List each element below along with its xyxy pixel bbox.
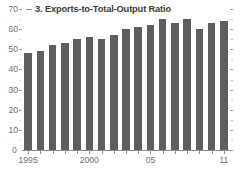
x-axis-tick <box>163 150 164 154</box>
x-axis-tick <box>138 150 139 154</box>
plot-area: 10203040506070 <box>22 9 230 150</box>
right-axis-minor-tick <box>231 59 233 60</box>
y-axis-label: 20 <box>8 106 18 114</box>
right-axis-minor-tick <box>231 140 233 141</box>
bar <box>61 43 69 150</box>
x-axis-tick <box>126 150 127 154</box>
right-axis-tick <box>230 69 233 70</box>
y-axis-zero-label: 0 <box>12 145 17 155</box>
bar <box>73 39 81 150</box>
y-axis-minor-tick <box>20 140 22 141</box>
y-axis-label: 30 <box>8 86 18 94</box>
x-axis-tick <box>114 150 115 154</box>
x-axis-label: 11 <box>219 155 228 165</box>
x-axis: 199520000511 <box>22 150 230 151</box>
x-axis-label: 1995 <box>19 155 38 165</box>
bar <box>24 53 32 150</box>
x-axis-tick <box>212 150 213 154</box>
bar <box>49 45 57 150</box>
right-axis-minor-tick <box>231 120 233 121</box>
x-axis-tick <box>40 150 41 154</box>
x-axis-tick <box>150 150 151 154</box>
x-axis-tick <box>224 150 225 154</box>
right-axis-tick <box>230 130 233 131</box>
x-axis-tick <box>102 150 103 154</box>
bar <box>220 21 228 150</box>
bar <box>183 19 191 150</box>
bar <box>208 23 216 150</box>
right-axis-tick <box>230 110 233 111</box>
right-axis-tick <box>230 90 233 91</box>
bar <box>171 23 179 150</box>
x-axis-tick <box>89 150 90 154</box>
bar <box>134 27 142 150</box>
right-axis-tick <box>230 9 233 10</box>
bar <box>98 39 106 150</box>
y-axis-tick <box>19 110 22 111</box>
y-axis-label: 10 <box>8 126 18 134</box>
y-axis-minor-tick <box>20 80 22 81</box>
x-axis-tick <box>28 150 29 154</box>
right-axis-minor-tick <box>231 19 233 20</box>
x-axis-label: 05 <box>146 155 156 165</box>
y-axis-label: 70 <box>8 5 18 13</box>
x-axis-tick <box>187 150 188 154</box>
y-axis-tick <box>19 9 22 10</box>
right-axis-minor-tick <box>231 80 233 81</box>
y-axis-label: 50 <box>8 45 18 53</box>
y-axis-minor-tick <box>20 120 22 121</box>
x-axis-label: 2000 <box>80 155 99 165</box>
x-axis-tick <box>53 150 54 154</box>
chart-figure: 3. Exports-to-Total-Output Ratio 1020304… <box>0 0 241 176</box>
y-axis-tick <box>19 90 22 91</box>
y-axis-label: 40 <box>8 65 18 73</box>
x-axis-tick <box>65 150 66 154</box>
x-axis-tick <box>175 150 176 154</box>
bar <box>37 51 45 150</box>
y-axis-tick <box>19 29 22 30</box>
x-axis-tick <box>199 150 200 154</box>
y-axis-minor-tick <box>20 19 22 20</box>
y-axis-minor-tick <box>20 39 22 40</box>
y-axis-minor-tick <box>20 59 22 60</box>
y-axis-minor-tick <box>20 100 22 101</box>
bar <box>86 37 94 150</box>
x-axis-tick <box>77 150 78 154</box>
y-axis-tick <box>19 130 22 131</box>
y-axis-tick <box>19 49 22 50</box>
bar <box>159 19 167 150</box>
right-axis-tick <box>230 150 233 151</box>
right-axis-minor-tick <box>231 39 233 40</box>
right-axis-tick <box>230 29 233 30</box>
right-axis-tick <box>230 49 233 50</box>
bar <box>196 29 204 150</box>
bar <box>147 25 155 150</box>
bar <box>110 35 118 150</box>
y-axis-label: 60 <box>8 25 18 33</box>
bar <box>122 29 130 150</box>
right-axis-minor-tick <box>231 100 233 101</box>
y-axis-tick <box>19 69 22 70</box>
